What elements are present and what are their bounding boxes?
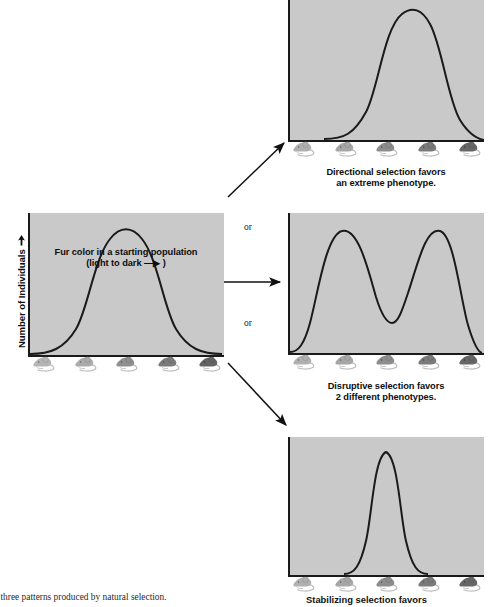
- y-axis-directional-selection: [288, 0, 290, 141]
- mouse-icon-1: [333, 139, 359, 158]
- mouse-4: [197, 354, 223, 377]
- mouse-icon-2: [374, 352, 400, 371]
- panel-stabilizing-selection: [288, 437, 484, 576]
- caption-directional-selection: Directional selection favors an extreme …: [280, 167, 488, 190]
- mouse-icon-0: [31, 354, 57, 373]
- mouse-4: [457, 139, 483, 162]
- or-label-top: or: [244, 222, 252, 232]
- arrow-to-directional: [228, 143, 284, 197]
- footer-left-text: e three patterns produced by natural sel…: [0, 592, 167, 602]
- mouse-icon-1: [333, 574, 359, 593]
- mice-row-disruptive-selection: [291, 352, 483, 375]
- caption-line-1: Fur color in a starting population: [55, 247, 198, 257]
- panel-starting-population: Fur color in a starting population (ligh…: [28, 213, 224, 356]
- footer-right-text: Stabilizing selection favors: [306, 594, 427, 605]
- y-axis-starting-population: [28, 213, 30, 356]
- mouse-1: [333, 352, 359, 375]
- curve-disruptive-selection: [288, 213, 484, 354]
- curve-stabilizing-selection: [288, 437, 484, 576]
- caption-line-1: Disruptive selection favors: [328, 381, 445, 391]
- caption-line-2: an extreme phenotype.: [280, 178, 488, 189]
- mouse-4: [457, 574, 483, 597]
- or-label-bottom: or: [244, 318, 252, 328]
- mouse-icon-1: [73, 354, 99, 373]
- mouse-4: [457, 352, 483, 375]
- panel-disruptive-selection: Disruptive selection favors 2 different …: [288, 213, 484, 354]
- mouse-icon-2: [114, 354, 140, 373]
- plot-area-directional-selection: [288, 0, 484, 141]
- mouse-icon-3: [416, 139, 442, 158]
- up-arrow-icon: [17, 235, 26, 246]
- mouse-3: [416, 139, 442, 162]
- mouse-icon-4: [457, 574, 483, 593]
- caption-line-1: Directional selection favors: [326, 167, 445, 177]
- mouse-3: [416, 352, 442, 375]
- figure-canvas: or or Fur color in a starting population…: [0, 0, 488, 607]
- curve-directional-selection: [288, 0, 484, 141]
- plot-area-disruptive-selection: [288, 213, 484, 354]
- mouse-0: [31, 354, 57, 377]
- mouse-icon-3: [156, 354, 182, 373]
- mouse-icon-3: [416, 574, 442, 593]
- mouse-icon-2: [374, 139, 400, 158]
- caption-line-2: (light to dark —▶ ): [20, 258, 232, 269]
- mouse-3: [156, 354, 182, 377]
- y-axis-disruptive-selection: [288, 213, 290, 354]
- mice-row-starting-population: [31, 354, 223, 377]
- mouse-icon-0: [291, 139, 317, 158]
- mouse-0: [291, 139, 317, 162]
- mouse-icon-0: [291, 574, 317, 593]
- curve-starting-population: [28, 213, 224, 356]
- y-axis-stabilizing-selection: [288, 437, 290, 576]
- mouse-icon-4: [457, 352, 483, 371]
- mouse-icon-4: [197, 354, 223, 373]
- mouse-1: [73, 354, 99, 377]
- y-axis-title: Number of Individuals: [16, 235, 27, 348]
- mouse-icon-1: [333, 352, 359, 371]
- caption-starting-population: Fur color in a starting population (ligh…: [20, 247, 232, 270]
- y-axis-title-text: Number of Individuals: [16, 249, 27, 348]
- caption-line-2: 2 different phenotypes.: [280, 392, 488, 403]
- mouse-icon-0: [291, 352, 317, 371]
- plot-area-stabilizing-selection: [288, 437, 484, 576]
- mouse-icon-4: [457, 139, 483, 158]
- mice-row-directional-selection: [291, 139, 483, 162]
- mouse-1: [333, 139, 359, 162]
- mouse-2: [374, 139, 400, 162]
- caption-disruptive-selection: Disruptive selection favors 2 different …: [280, 381, 488, 404]
- mouse-0: [291, 352, 317, 375]
- mouse-icon-3: [416, 352, 442, 371]
- mouse-icon-2: [374, 574, 400, 593]
- panel-directional-selection: Directional selection favors an extreme …: [288, 0, 484, 141]
- plot-area-starting-population: [28, 213, 224, 356]
- arrow-to-stabilizing: [228, 363, 286, 425]
- mouse-2: [374, 352, 400, 375]
- mouse-2: [114, 354, 140, 377]
